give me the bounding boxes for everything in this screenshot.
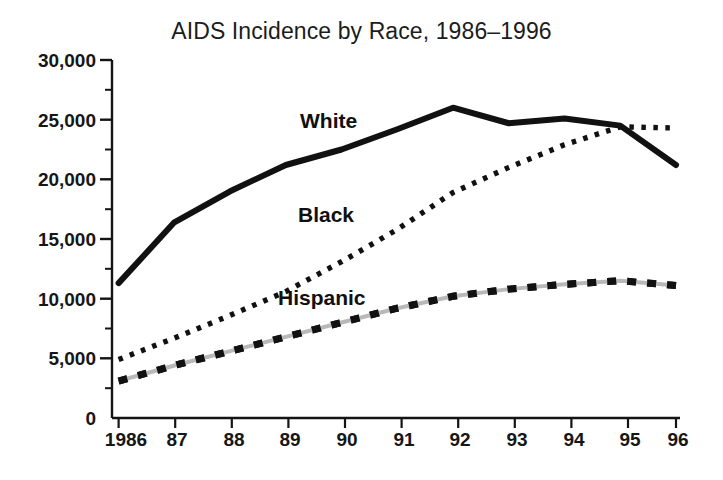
x-tick-label-93: 93 xyxy=(506,429,527,450)
x-tick-label-94: 94 xyxy=(563,429,585,450)
x-tick-label-96: 96 xyxy=(667,429,688,450)
line-chart-plot: 30,000 25,000 20,000 15,000 10,000 5,000… xyxy=(0,0,723,480)
x-tick-label-92: 92 xyxy=(449,429,470,450)
x-tick-label-87: 87 xyxy=(166,429,187,450)
y-tick-label-15000: 15,000 xyxy=(38,229,96,250)
series-label-black: Black xyxy=(298,203,354,226)
series-label-white: White xyxy=(300,109,357,132)
series-line-black xyxy=(119,127,676,360)
y-tick-label-0: 0 xyxy=(85,408,96,429)
series-line-white xyxy=(119,108,676,283)
series-group xyxy=(119,108,676,381)
y-tick-label-10000: 10,000 xyxy=(38,289,96,310)
series-line-hispanic-overlay xyxy=(119,281,676,381)
chart-figure: AIDS Incidence by Race, 1986–1996 30,000… xyxy=(0,0,723,480)
y-tick-label-25000: 25,000 xyxy=(38,110,96,131)
series-label-hispanic: Hispanic xyxy=(278,286,366,309)
y-axis: 30,000 25,000 20,000 15,000 10,000 5,000… xyxy=(38,50,112,429)
series-line-hispanic-connector xyxy=(119,281,676,381)
x-tick-label-88: 88 xyxy=(223,429,244,450)
x-tick-label-91: 91 xyxy=(393,429,415,450)
series-line-hispanic xyxy=(119,281,676,381)
x-tick-label-95: 95 xyxy=(619,429,641,450)
y-tick-label-30000: 30,000 xyxy=(38,50,96,71)
x-tick-label-89: 89 xyxy=(279,429,300,450)
y-tick-label-5000: 5,000 xyxy=(48,348,96,369)
y-tick-label-20000: 20,000 xyxy=(38,169,96,190)
x-tick-label-1986: 1986 xyxy=(105,429,147,450)
x-tick-label-90: 90 xyxy=(336,429,357,450)
x-axis: 1986 87 88 89 90 91 92 93 94 95 96 xyxy=(105,418,689,450)
